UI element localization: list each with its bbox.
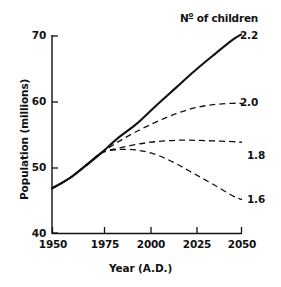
series-curve-2-2 <box>52 34 242 188</box>
series-curve-2-0 <box>52 103 242 188</box>
series-curve-1-6 <box>52 149 242 199</box>
series-label-1-6: 1.6 <box>247 193 265 205</box>
x-tick-label-2025: 2025 <box>176 238 218 250</box>
legend-title-prefix: N <box>180 12 189 24</box>
y-axis-title: Population (millions) <box>18 79 30 200</box>
x-tick-label-2000: 2000 <box>130 238 172 250</box>
series-historical-trunk <box>52 153 101 189</box>
series-label-2-2: 2.2 <box>240 29 258 41</box>
series-label-2-0: 2.0 <box>240 96 258 108</box>
legend-title-suffix: of children <box>193 12 258 24</box>
population-projection-chart: 70 60 50 40 1950 1975 2000 2025 2050 Pop… <box>0 0 281 287</box>
series-curve-1-8 <box>52 140 242 188</box>
x-tick-label-1975: 1975 <box>84 238 126 250</box>
y-tick-label-70: 70 <box>22 29 46 41</box>
x-tick-label-2050: 2050 <box>221 238 263 250</box>
series-curves <box>52 34 242 200</box>
x-axis-title: Year (A.D.) <box>0 262 281 274</box>
legend-title: No of children <box>180 11 258 24</box>
x-tick-label-1950: 1950 <box>32 238 74 250</box>
series-label-1-8: 1.8 <box>247 149 265 161</box>
